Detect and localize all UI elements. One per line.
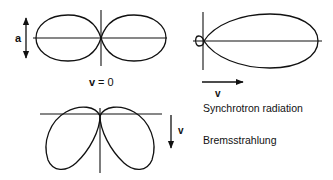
synchrotron-pattern: v Synchrotron radiation: [193, 12, 322, 114]
radiation-patterns-diagram: a v = 0 v Synchrotron radiation v Bremss…: [0, 0, 333, 180]
bremsstrahlung-right-lobe: [100, 107, 154, 169]
acceleration-label: a: [15, 32, 22, 44]
synchrotron-velocity-label: v: [215, 88, 221, 99]
bremsstrahlung-pattern: v Bremsstrahlung: [40, 107, 277, 173]
dipole-velocity-label: v: [89, 76, 96, 88]
bremsstrahlung-caption: Bremsstrahlung: [203, 134, 277, 146]
dipole-pattern: a v = 0: [15, 10, 167, 88]
synchrotron-caption: Synchrotron radiation: [203, 102, 303, 114]
bremsstrahlung-velocity-label: v: [178, 125, 184, 136]
bremsstrahlung-left-lobe: [46, 107, 100, 169]
dipole-velocity-equation: = 0: [98, 76, 114, 88]
